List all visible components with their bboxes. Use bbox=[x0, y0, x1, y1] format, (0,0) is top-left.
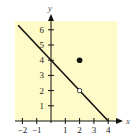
y-tick-label: 2 bbox=[40, 86, 45, 96]
plot-background bbox=[15, 21, 117, 121]
y-tick-label: 4 bbox=[40, 55, 45, 65]
x-tick-label: −1 bbox=[32, 125, 42, 135]
x-axis-label: x bbox=[125, 116, 130, 126]
y-axis-arrow-icon bbox=[48, 14, 54, 21]
x-axis-arrow-icon bbox=[116, 118, 123, 124]
x-tick-label: 3 bbox=[92, 125, 97, 135]
y-tick-label: 6 bbox=[40, 25, 45, 35]
open-point bbox=[77, 88, 81, 92]
x-tick-label: 4 bbox=[106, 125, 111, 135]
y-axis-label: y bbox=[47, 3, 52, 13]
x-tick-label: 1 bbox=[63, 125, 68, 135]
y-tick-label: 1 bbox=[40, 101, 45, 111]
graph: −2−11234123456 x y bbox=[0, 0, 137, 139]
filled-point bbox=[77, 57, 83, 63]
x-tick-label: 2 bbox=[77, 125, 82, 135]
x-tick-label: −2 bbox=[18, 125, 28, 135]
y-tick-label: 3 bbox=[40, 70, 45, 80]
